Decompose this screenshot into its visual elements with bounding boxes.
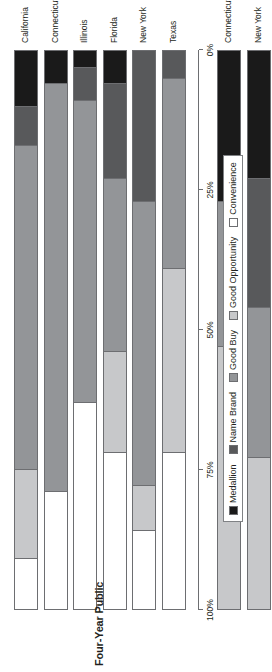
legend-swatch-icon bbox=[229, 311, 238, 320]
category-label: New York bbox=[253, 0, 263, 43]
bar-segment bbox=[248, 458, 270, 609]
bar-segment bbox=[15, 107, 37, 146]
axis-tick-label: 25% bbox=[205, 170, 215, 210]
category-label: California bbox=[20, 0, 30, 43]
bar-segment bbox=[248, 308, 270, 459]
bar-segment bbox=[104, 352, 126, 452]
axis-tick bbox=[199, 609, 203, 610]
stacked-bar bbox=[103, 50, 127, 610]
legend-label: Convenience bbox=[228, 162, 238, 215]
bar-row bbox=[14, 50, 38, 610]
stacked-bar bbox=[247, 50, 271, 610]
legend-item: Medallion bbox=[228, 464, 238, 515]
category-label: New York bbox=[138, 0, 148, 43]
group-title: Four-Year Public bbox=[93, 582, 105, 666]
bar-segment bbox=[15, 470, 37, 559]
bar-row bbox=[162, 50, 186, 610]
bar-segment bbox=[45, 492, 67, 609]
category-label: Connecticut bbox=[223, 0, 233, 43]
category-label: Florida bbox=[109, 0, 119, 43]
rotated-figure-wrapper: 0%25%50%75%100% Four-Year PublicFour-Yea… bbox=[0, 0, 272, 672]
axis-tick bbox=[199, 469, 203, 470]
plot-area bbox=[14, 50, 196, 610]
bar-segment bbox=[163, 453, 185, 609]
bar-segment bbox=[248, 179, 270, 307]
legend-label: Good Opportunity bbox=[228, 237, 238, 308]
stacked-bar-chart: 0%25%50%75%100% Four-Year PublicFour-Yea… bbox=[0, 0, 272, 672]
bar-segment bbox=[15, 146, 37, 470]
bar-segment bbox=[104, 453, 126, 609]
category-label: Illinois bbox=[79, 0, 89, 43]
legend-item: Convenience bbox=[228, 162, 238, 227]
bar-segment bbox=[104, 85, 126, 180]
bar-row bbox=[132, 50, 156, 610]
stacked-bar bbox=[14, 50, 38, 610]
bar-segment bbox=[248, 51, 270, 179]
bar-segment bbox=[133, 531, 155, 609]
axis-tick bbox=[199, 329, 203, 330]
stacked-bar bbox=[132, 50, 156, 610]
bar-segment bbox=[133, 51, 155, 202]
bar-row bbox=[103, 50, 127, 610]
legend-item: Good Opportunity bbox=[228, 237, 238, 320]
category-label: Connecticut bbox=[50, 0, 60, 43]
legend-swatch-icon bbox=[229, 445, 238, 454]
chart-screenshot: 0%25%50%75%100% Four-Year PublicFour-Yea… bbox=[0, 0, 272, 672]
legend-swatch-icon bbox=[229, 218, 238, 227]
axis-tick-label: 50% bbox=[205, 310, 215, 350]
axis-tick-label: 0% bbox=[205, 30, 215, 70]
bar-segment bbox=[163, 269, 185, 453]
bar-segment bbox=[133, 202, 155, 487]
bar-segment bbox=[104, 179, 126, 352]
legend-swatch-icon bbox=[229, 373, 238, 382]
bar-row bbox=[247, 50, 271, 610]
stacked-bar bbox=[73, 50, 97, 610]
legend-label: Name Brand bbox=[228, 392, 238, 443]
bar-segment bbox=[15, 51, 37, 107]
axis-tick bbox=[199, 49, 203, 50]
bar-segment bbox=[163, 79, 185, 269]
bar-segment bbox=[74, 68, 96, 101]
axis-tick bbox=[199, 189, 203, 190]
bar-segment bbox=[45, 51, 67, 84]
legend-label: Medallion bbox=[228, 464, 238, 503]
chart-legend: MedallionName BrandGood BuyGood Opportun… bbox=[223, 155, 243, 522]
stacked-bar bbox=[44, 50, 68, 610]
bar-row bbox=[73, 50, 97, 610]
value-axis-line bbox=[198, 50, 199, 610]
axis-tick-label: 100% bbox=[205, 590, 215, 630]
bar-row bbox=[44, 50, 68, 610]
bar-segment bbox=[74, 101, 96, 402]
legend-label: Good Buy bbox=[228, 330, 238, 370]
bar-segment bbox=[74, 51, 96, 68]
bar-segment bbox=[163, 51, 185, 79]
axis-tick-label: 75% bbox=[205, 450, 215, 490]
bar-segment bbox=[74, 403, 96, 609]
legend-item: Good Buy bbox=[228, 330, 238, 382]
legend-swatch-icon bbox=[229, 506, 238, 515]
bar-segment bbox=[15, 559, 37, 609]
bar-segment bbox=[45, 85, 67, 492]
stacked-bar bbox=[162, 50, 186, 610]
bar-segment bbox=[133, 486, 155, 531]
legend-item: Name Brand bbox=[228, 392, 238, 455]
bar-segment bbox=[104, 51, 126, 84]
category-label: Texas bbox=[168, 0, 178, 43]
